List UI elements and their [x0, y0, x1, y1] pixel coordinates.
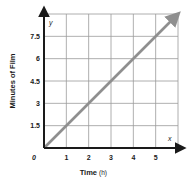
- x-tick-label: 5: [154, 154, 158, 161]
- x-tick-label: 1: [64, 154, 68, 161]
- x-axis-tick-labels: 1 2 3 4 5: [64, 154, 157, 161]
- y-axis-tick-labels: 1.5 3 4.5 6 7.5: [30, 33, 40, 129]
- origin-label: 0: [32, 154, 36, 161]
- y-tick-label: 7.5: [30, 33, 40, 40]
- x-axis-title: Time: [80, 168, 97, 177]
- y-tick-label: 4.5: [30, 78, 40, 85]
- y-tick-label: 6: [36, 55, 40, 62]
- line-chart: y x 0 1.5 3 4.5 6 7.5 1 2 3 4 5 Time (h)…: [0, 0, 187, 182]
- chart-container: y x 0 1.5 3 4.5 6 7.5 1 2 3 4 5 Time (h)…: [0, 0, 187, 182]
- x-axis-title-unit: (h): [99, 169, 107, 177]
- x-tick-label: 3: [109, 154, 113, 161]
- y-tick-label: 1.5: [30, 122, 40, 129]
- y-axis-title: Minutes of Film: [8, 53, 17, 108]
- y-tick-label: 3: [36, 100, 40, 107]
- x-axis-symbol: x: [167, 135, 172, 142]
- x-tick-label: 4: [131, 154, 135, 161]
- y-axis-symbol: y: [48, 19, 53, 27]
- x-tick-label: 2: [87, 154, 91, 161]
